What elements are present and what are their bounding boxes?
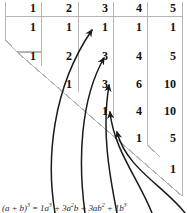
diagonal-boundary xyxy=(17,52,182,196)
arrow-group xyxy=(51,30,185,213)
diagram-canvas xyxy=(0,0,187,213)
pascal-triangle-diagram: 1 2 3 4 5 1 1 1 1 1 1 2 3 4 5 1 3 6 10 1… xyxy=(0,0,187,213)
arrow-to-diag-1 xyxy=(51,30,92,213)
grid-bottom-tail xyxy=(148,145,161,157)
grid-lines xyxy=(5,2,183,196)
arrow-to-diag-2 xyxy=(81,58,104,213)
arrow-to-diag-5 xyxy=(117,132,185,213)
arrow-to-diag-4 xyxy=(110,112,152,213)
binomial-expansion-formula: (a + b)3 = 1a3 + 3a2b + 3ab2 + 1b3 xyxy=(2,202,187,213)
staircase-boundary xyxy=(6,40,42,52)
arrow-to-diag-3 xyxy=(106,85,117,213)
